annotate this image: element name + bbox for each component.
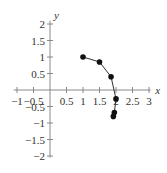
x-tick-label: 1.5 bbox=[93, 95, 107, 107]
y-axis-label: y bbox=[53, 9, 59, 21]
y-tick-label: 1 bbox=[40, 51, 46, 63]
chart: xy−1−0.50.511.522.5321.510.5−0.5−1−1.5−2 bbox=[0, 0, 167, 173]
data-point bbox=[97, 59, 103, 65]
data-point bbox=[111, 114, 117, 120]
data-line bbox=[83, 57, 116, 116]
x-tick-label: 0.5 bbox=[60, 95, 74, 107]
y-tick-label: −1.5 bbox=[25, 134, 45, 146]
data-point bbox=[113, 96, 119, 102]
x-axis-label: x bbox=[154, 84, 160, 96]
y-tick-label: −2 bbox=[33, 150, 45, 162]
y-tick-label: −0.5 bbox=[25, 101, 45, 113]
y-tick-label: 2 bbox=[40, 18, 46, 30]
x-tick-label: 1 bbox=[80, 95, 86, 107]
y-tick-label: −1 bbox=[33, 117, 45, 129]
y-tick-label: 1.5 bbox=[31, 35, 45, 47]
y-tick-label: 0.5 bbox=[31, 68, 45, 80]
data-point bbox=[108, 74, 114, 80]
data-point bbox=[80, 54, 86, 60]
x-tick-label: 3 bbox=[146, 95, 152, 107]
x-tick-label: 2.5 bbox=[126, 95, 140, 107]
x-tick-label: −1 bbox=[11, 95, 23, 107]
